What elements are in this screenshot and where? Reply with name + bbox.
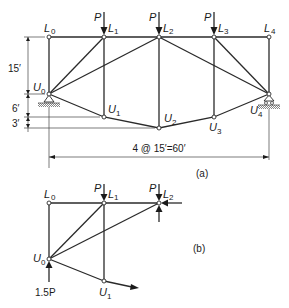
svg-text:0: 0 xyxy=(51,27,56,36)
label-l0: L0 xyxy=(44,22,56,36)
joint-l2 xyxy=(157,35,161,39)
joint-l1 xyxy=(102,35,106,39)
svg-text:2: 2 xyxy=(169,27,174,36)
svg-text:U: U xyxy=(209,121,217,133)
load-arrow-l1: P xyxy=(94,11,108,35)
dim-3ft: 3′ xyxy=(12,118,20,129)
svg-text:L: L xyxy=(44,188,50,200)
svg-text:U: U xyxy=(108,103,116,115)
reaction-label: 1.5P xyxy=(35,287,56,298)
svg-text:0: 0 xyxy=(51,193,56,202)
diagonal-l3-u4 xyxy=(214,37,269,94)
vertical-dimensions: 15′ 6′ 3′ xyxy=(8,37,155,132)
svg-text:2: 2 xyxy=(172,118,177,127)
svg-text:U: U xyxy=(164,112,172,124)
joint-l2-b xyxy=(157,201,161,205)
label-l1-b: L1 xyxy=(108,188,119,202)
caption-a: (a) xyxy=(196,168,208,179)
svg-text:1: 1 xyxy=(107,292,112,301)
joint-u3 xyxy=(212,115,216,119)
joint-u0-b xyxy=(47,257,51,261)
label-u2: U2 xyxy=(164,112,177,127)
load-arrow-l1-b: P xyxy=(94,182,108,201)
joint-l3 xyxy=(212,35,216,39)
truss-part-a: P P P L0 L1 L2 L3 L4 U0 U1 U2 U3 U4 xyxy=(8,11,280,179)
label-l2: L2 xyxy=(163,22,174,36)
svg-text:4: 4 xyxy=(271,27,276,36)
truss-part-b: P P 1.5P L0 L1 L2 U0 xyxy=(33,182,205,301)
vertical-force-arrow-l2 xyxy=(156,205,163,222)
dim-15ft: 15′ xyxy=(8,63,21,74)
svg-text:U: U xyxy=(250,104,258,116)
label-l1: L1 xyxy=(108,22,119,36)
svg-text:P: P xyxy=(94,182,102,194)
joint-u0 xyxy=(47,92,51,96)
joint-l1-b xyxy=(102,201,106,205)
label-l3: L3 xyxy=(218,22,229,36)
svg-text:P: P xyxy=(204,11,212,23)
svg-text:1: 1 xyxy=(116,109,121,118)
svg-text:0: 0 xyxy=(41,258,46,267)
label-u1: U1 xyxy=(108,103,121,118)
diagonal-u0-l1 xyxy=(49,37,104,94)
label-u0-b: U0 xyxy=(33,252,46,267)
caption-b: (b) xyxy=(193,243,205,254)
diagonal-u0-l1-b xyxy=(49,203,104,259)
dim-6ft: 6′ xyxy=(12,103,20,114)
load-arrow-l3: P xyxy=(204,11,218,35)
load-arrow-l2: P xyxy=(149,11,163,35)
svg-text:3: 3 xyxy=(224,27,229,36)
bottom-u0-u1-b xyxy=(49,259,104,281)
joint-u2 xyxy=(157,126,161,130)
load-arrow-l2-b: P xyxy=(149,182,163,201)
joint-u1-b xyxy=(102,279,106,283)
svg-text:1: 1 xyxy=(114,27,119,36)
svg-text:L: L xyxy=(44,22,50,34)
svg-text:P: P xyxy=(149,11,157,23)
svg-text:P: P xyxy=(149,182,157,194)
svg-text:U: U xyxy=(99,286,107,298)
svg-text:U: U xyxy=(33,81,41,93)
label-l0-b: L0 xyxy=(44,188,56,202)
joint-u1 xyxy=(102,115,106,119)
joint-u4 xyxy=(267,92,271,96)
svg-text:0: 0 xyxy=(41,87,46,96)
svg-text:U: U xyxy=(33,252,41,264)
svg-text:2: 2 xyxy=(169,193,174,202)
cut-force-arrow-u1 xyxy=(104,281,139,290)
truss-figure: P P P L0 L1 L2 L3 L4 U0 U1 U2 U3 U4 xyxy=(0,0,289,308)
label-l4: L4 xyxy=(264,22,276,36)
svg-text:1: 1 xyxy=(114,193,119,202)
label-u1-b: U1 xyxy=(99,286,112,301)
svg-text:3: 3 xyxy=(217,127,222,136)
label-u3: U3 xyxy=(209,121,222,136)
svg-text:4 @ 15′=60′: 4 @ 15′=60′ xyxy=(132,143,185,154)
label-l2-b: L2 xyxy=(163,188,174,202)
svg-text:L: L xyxy=(264,22,270,34)
svg-text:P: P xyxy=(94,11,102,23)
svg-text:4: 4 xyxy=(258,110,263,119)
